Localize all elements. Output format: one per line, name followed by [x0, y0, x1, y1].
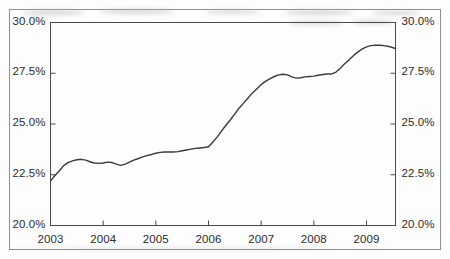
- y-tick-label-right: 25.0%: [402, 116, 449, 128]
- y-tick-label-left: 22.5%: [0, 167, 46, 179]
- x-tick-label: 2006: [184, 233, 234, 245]
- plot-frame: [51, 23, 396, 226]
- chart-figure: 30.0%30.0%27.5%27.5%25.0%25.0%22.5%22.5%…: [0, 0, 450, 259]
- x-tick-label: 2007: [236, 233, 286, 245]
- x-tick-label: 2008: [289, 233, 339, 245]
- y-tick-label-left: 25.0%: [0, 116, 46, 128]
- x-tick-label: 2005: [131, 233, 181, 245]
- y-tick-label-left: 27.5%: [0, 65, 46, 77]
- tick-marks: [51, 73, 396, 225]
- y-tick-label-right: 20.0%: [402, 218, 449, 230]
- y-tick-label-right: 30.0%: [402, 15, 449, 27]
- y-tick-label-left: 20.0%: [0, 218, 46, 230]
- y-tick-label-right: 22.5%: [402, 167, 449, 179]
- x-tick-label: 2009: [342, 233, 392, 245]
- x-tick-label: 2004: [78, 233, 128, 245]
- y-tick-label-left: 30.0%: [0, 15, 46, 27]
- plot-area: [0, 0, 450, 259]
- x-tick-label: 2003: [26, 233, 76, 245]
- data-line-series-1: [51, 45, 396, 181]
- y-tick-label-right: 27.5%: [402, 65, 449, 77]
